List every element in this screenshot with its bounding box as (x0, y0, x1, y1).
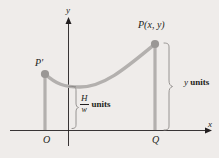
y-units-brace-label: y units (184, 78, 209, 87)
point-p-prime-label: P' (35, 58, 43, 68)
brace-h-over-w (72, 87, 79, 129)
x-axis-label: x (208, 120, 212, 129)
brace-y-units (164, 43, 173, 130)
fraction-numerator-h: H (80, 94, 89, 103)
figure-container: y x O Q P' P(x, y) y units H w units (0, 0, 219, 158)
point-q-label: Q (152, 135, 159, 145)
h-over-w-fraction: H w (80, 94, 89, 114)
h-over-w-units-brace-label: H w units (80, 94, 111, 114)
origin-label: O (43, 135, 50, 145)
point-p-label: P(x, y) (138, 20, 165, 30)
y-units-word: units (190, 77, 209, 87)
y-axis (66, 17, 72, 146)
x-axis (10, 128, 212, 134)
point-marker-p-prime (41, 70, 49, 78)
y-axis-label: y (66, 6, 70, 15)
fraction-denominator-w: w (81, 106, 88, 114)
point-marker-p (151, 40, 159, 48)
hw-units-word: units (92, 100, 111, 109)
catenary-curve (45, 44, 155, 87)
